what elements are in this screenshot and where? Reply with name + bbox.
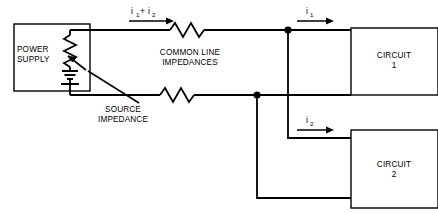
current-label-isum-sub2: 2 <box>152 11 156 18</box>
current-label-isum-base: i <box>131 6 133 16</box>
current-arrow-isum-head <box>166 18 174 25</box>
circuit-2-box <box>351 130 438 208</box>
circuit-diagram: POWER SUPPLY <box>0 0 438 214</box>
source-impedance-resistor <box>64 35 76 67</box>
current-label-i1-sub: 1 <box>310 11 314 18</box>
source-impedance-label-line1: SOURCE <box>105 105 141 114</box>
common-line-impedances-label-line2: IMPEDANCES <box>162 58 218 67</box>
diagram-canvas: POWER SUPPLY <box>0 0 438 214</box>
circuit-1-label-line2: 1 <box>392 61 397 70</box>
current-label-i2-sub: 2 <box>310 120 314 127</box>
power-supply-label-line1: POWER <box>17 45 49 54</box>
current-arrow-i2-head <box>326 127 334 134</box>
source-impedance-leader-line <box>88 71 139 103</box>
power-supply-label-line2: SUPPLY <box>17 55 50 64</box>
common-impedance-resistor-bottom <box>160 88 194 102</box>
common-line-impedances-label-line1: COMMON LINE <box>160 48 221 57</box>
branch-to-circuit2-top <box>288 30 351 138</box>
circuit-2-label-line1: CIRCUIT <box>377 160 411 169</box>
common-impedance-resistor-top <box>170 23 204 37</box>
current-label-isum-base2: i <box>148 6 150 16</box>
current-arrow-i1-head <box>326 18 334 25</box>
source-impedance-label-line2: IMPEDANCE <box>98 115 148 124</box>
circuit-1-label-line1: CIRCUIT <box>377 51 411 60</box>
branch-to-circuit2-bottom <box>257 95 351 198</box>
circuit-2-label-line2: 2 <box>392 170 397 179</box>
current-label-i2-base: i <box>306 115 308 125</box>
current-label-isum-operator: + <box>140 6 145 16</box>
current-label-i1-base: i <box>306 6 308 16</box>
